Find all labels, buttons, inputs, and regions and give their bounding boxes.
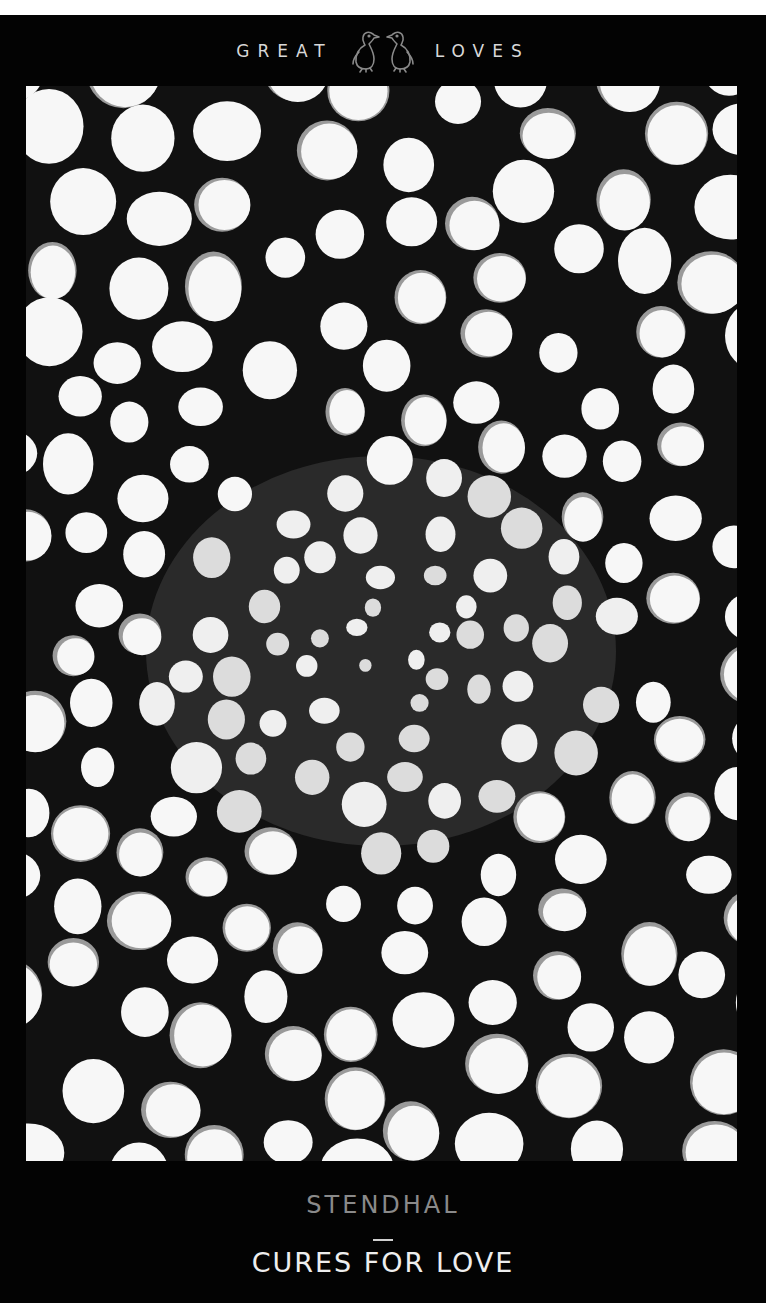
- series-label-great: GREAT: [236, 41, 332, 61]
- series-label-loves: LOVES: [435, 41, 530, 61]
- book-title: CURES FOR LOVE: [0, 1247, 766, 1278]
- cover-artwork-plant-cells: [26, 86, 737, 1161]
- book-cover: GREAT LOVES STENDHAL CURES FOR LOVE: [0, 15, 766, 1303]
- separator-dash: [373, 1239, 393, 1241]
- cell-illustration: [26, 86, 737, 1161]
- series-banner: GREAT LOVES: [0, 15, 766, 86]
- author-name: STENDHAL: [0, 1191, 766, 1219]
- twin-penguins-logo-icon: [347, 28, 419, 74]
- credits-block: STENDHAL CURES FOR LOVE: [0, 1161, 766, 1303]
